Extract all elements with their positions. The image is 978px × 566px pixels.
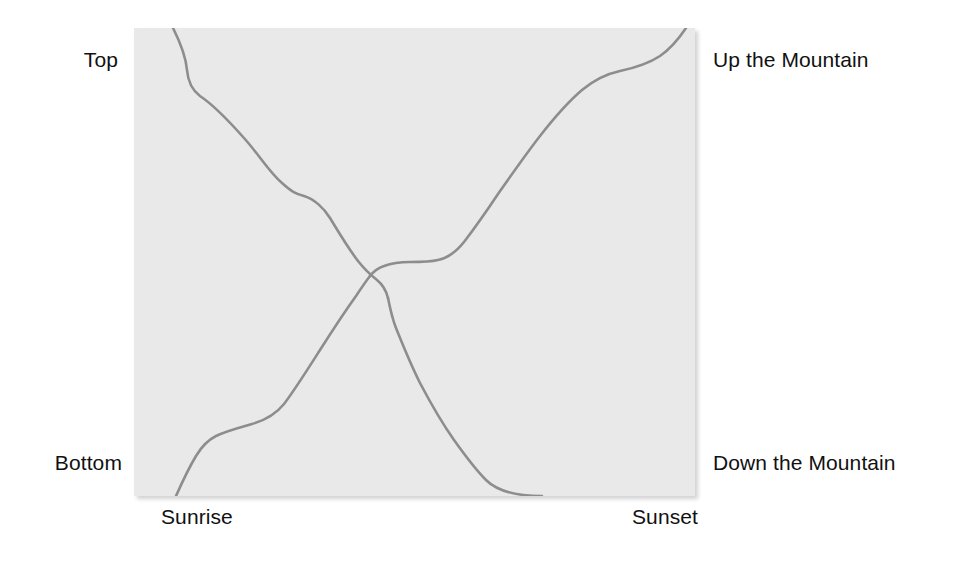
axis-label-sunset: Sunset (632, 504, 698, 529)
axis-label-bottom: Bottom (0, 450, 122, 475)
annotation-down-the-mountain: Down the Mountain (713, 450, 896, 475)
figure-container: Top Bottom Up the Mountain Down the Moun… (0, 0, 978, 566)
annotation-up-the-mountain: Up the Mountain (713, 47, 869, 72)
up-the-mountain-curve (176, 276, 370, 496)
axis-label-sunrise: Sunrise (161, 504, 233, 529)
axis-label-top: Top (0, 47, 118, 72)
curves-svg (134, 28, 695, 496)
down-the-mountain-curve-lower (388, 298, 542, 496)
up-the-mountain-curve-upper (370, 28, 686, 276)
plot-panel (134, 28, 695, 496)
down-the-mountain-curve (173, 28, 388, 298)
